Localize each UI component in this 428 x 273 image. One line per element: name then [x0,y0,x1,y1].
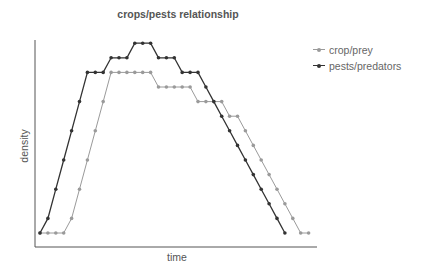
data-point [38,231,42,235]
data-point [141,41,145,45]
legend-item-crop: crop/prey [313,42,401,57]
data-point [101,71,105,75]
data-point [228,129,232,133]
data-point [236,144,240,148]
data-point [54,187,58,191]
data-point [149,71,153,75]
data-point [299,231,303,235]
data-point [228,114,232,118]
data-point [212,100,216,104]
data-point [259,187,263,191]
data-point [283,202,287,206]
data-point [252,144,256,148]
data-point [141,71,145,75]
data-point [117,56,121,60]
data-point [252,173,256,177]
data-point [196,100,200,104]
data-point [46,231,50,235]
data-point [220,114,224,118]
data-point [283,231,287,235]
data-point [125,56,129,60]
legend-label-pests: pests/predators [329,60,401,72]
data-point [165,56,169,60]
data-point [244,129,248,133]
data-point [259,158,263,162]
data-point [62,158,66,162]
series-layer [38,41,310,234]
data-point [86,71,90,75]
data-point [133,71,137,75]
data-point [188,71,192,75]
data-point [291,217,295,221]
data-point [54,231,58,235]
data-point [196,71,200,75]
data-point [307,231,311,235]
data-point [157,56,161,60]
data-point [244,158,248,162]
data-point [78,187,82,191]
data-point [204,85,208,89]
data-point [173,56,177,60]
legend: crop/prey pests/predators [313,42,401,74]
data-point [165,85,169,89]
data-point [125,71,129,75]
data-point [62,231,66,235]
data-point [275,217,279,221]
legend-item-pests: pests/predators [313,58,401,73]
data-point [267,202,271,206]
data-point [180,71,184,75]
data-point [109,71,113,75]
data-point [149,41,153,45]
data-point [133,41,137,45]
data-point [109,56,113,60]
data-point [236,114,240,118]
data-point [157,85,161,89]
data-point [94,71,98,75]
series-crop-prey [38,71,310,235]
data-point [267,173,271,177]
x-axis-label: time [147,251,207,263]
pests-line-marker-icon [313,62,325,70]
data-point [70,129,74,133]
data-point [94,129,98,133]
data-point [188,85,192,89]
data-point [70,217,74,221]
series-line [40,43,285,233]
data-point [117,71,121,75]
crop-line-marker-icon [313,46,325,54]
data-point [204,100,208,104]
data-point [180,85,184,89]
data-point [275,187,279,191]
plot-area [0,0,428,273]
legend-label-crop: crop/prey [329,44,373,56]
data-point [46,217,50,221]
y-axis-label: density [18,124,30,168]
data-point [173,85,177,89]
data-point [101,100,105,104]
data-point [78,100,82,104]
data-point [220,100,224,104]
data-point [86,158,90,162]
